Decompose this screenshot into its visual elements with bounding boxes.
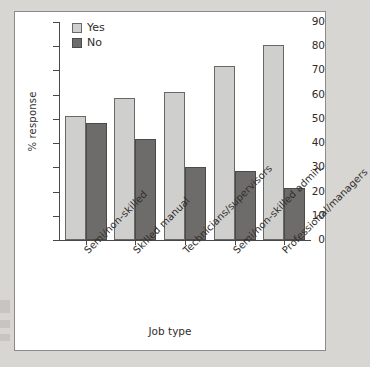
y-axis-tick — [53, 46, 59, 47]
y-axis-tick — [53, 70, 59, 71]
legend-swatch-no-icon — [72, 38, 82, 48]
x-axis-title: Job type — [15, 325, 325, 337]
bar-group — [65, 22, 107, 240]
bar-yes — [65, 116, 86, 240]
legend-item-no: No — [72, 35, 105, 50]
y-axis-tick — [53, 95, 59, 96]
chart-legend: Yes No — [72, 20, 105, 50]
y-axis-tick — [53, 119, 59, 120]
legend-item-yes: Yes — [72, 20, 105, 35]
scan-artifact — [0, 334, 10, 341]
y-axis-title: % response — [27, 77, 38, 167]
y-axis-tick — [53, 143, 59, 144]
legend-swatch-yes-icon — [72, 23, 82, 33]
legend-label-yes: Yes — [87, 21, 105, 34]
figure-panel: % response 0102030405060708090 Semi/non-… — [14, 11, 326, 351]
bar-no — [86, 123, 107, 240]
scan-artifact — [0, 300, 10, 313]
y-axis-line — [59, 22, 60, 240]
y-axis-tick — [53, 192, 59, 193]
y-axis-tick — [53, 22, 59, 23]
legend-label-no: No — [87, 36, 102, 49]
y-axis-tick — [53, 167, 59, 168]
scan-artifact — [0, 320, 10, 328]
y-axis-tick — [53, 216, 59, 217]
bar-chart: % response 0102030405060708090 Semi/non-… — [15, 12, 325, 350]
